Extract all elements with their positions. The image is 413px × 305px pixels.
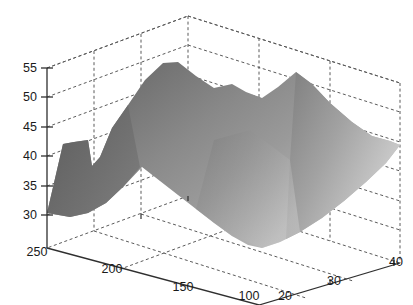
grid-top-back-right <box>188 16 400 83</box>
z-tick-label-5: 30 <box>23 208 37 222</box>
grid-right-z55 <box>188 16 400 83</box>
x-axis-ticks <box>141 196 188 219</box>
x-tick-label-100: 100 <box>239 289 260 303</box>
surface-right-flank <box>286 72 400 239</box>
y-tick-labels: 20 30 40 <box>278 255 403 303</box>
x-axis-line <box>47 248 259 305</box>
surface-left-flank <box>47 105 140 217</box>
grid-left-z55 <box>47 16 188 68</box>
y-tick-label-40: 40 <box>389 255 403 269</box>
surface-plot-figure: 55 50 45 40 35 30 250 200 150 100 20 30 … <box>0 0 413 305</box>
x-tick-label-200: 200 <box>102 262 123 276</box>
surface-mesh <box>47 62 400 248</box>
z-tick-label-2: 45 <box>23 120 37 134</box>
x-tick-label-250: 250 <box>27 245 48 259</box>
y-tick-label-30: 30 <box>327 274 341 288</box>
y-tick-label-20: 20 <box>278 289 292 303</box>
plot-canvas: 55 50 45 40 35 30 250 200 150 100 20 30 … <box>0 0 413 305</box>
x-tick-label-150: 150 <box>173 280 194 294</box>
z-tick-label-3: 40 <box>23 149 37 163</box>
z-tick-labels: 55 50 45 40 35 30 <box>23 61 37 222</box>
z-tick-label-4: 35 <box>23 179 37 193</box>
z-tick-label-1: 50 <box>23 90 37 104</box>
z-tick-label-0: 55 <box>23 61 37 75</box>
